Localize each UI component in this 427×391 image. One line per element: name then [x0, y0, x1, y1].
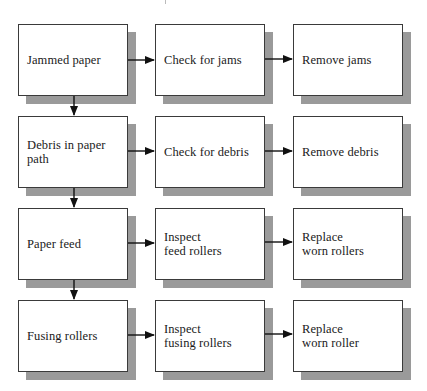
node-label: Check for debris [164, 145, 249, 159]
node-replace-worn-rollers: Replace worn rollers [293, 208, 403, 280]
node-box: Paper feed [18, 208, 128, 280]
node-inspect-fusing-rollers: Inspect fusing rollers [155, 300, 265, 372]
node-box: Inspect fusing rollers [155, 300, 265, 372]
node-debris-in-paper-path: Debris in paper path [18, 116, 128, 188]
node-jammed-paper: Jammed paper [18, 24, 128, 96]
node-box: Fusing rollers [18, 300, 128, 372]
node-check-for-debris: Check for debris [155, 116, 265, 188]
stray-mark [165, 0, 166, 4]
node-label: Paper feed [27, 237, 81, 251]
node-label: Jammed paper [27, 53, 101, 67]
node-label: Inspect feed rollers [164, 230, 222, 258]
node-label: Fusing rollers [27, 329, 98, 343]
node-label: Debris in paper path [27, 138, 106, 166]
node-box: Debris in paper path [18, 116, 128, 188]
node-box: Remove debris [293, 116, 403, 188]
node-box: Replace worn rollers [293, 208, 403, 280]
troubleshooting-flowchart: Jammed paper Check for jams Remove jams … [0, 0, 427, 391]
node-label: Replace worn roller [302, 322, 359, 350]
node-box: Jammed paper [18, 24, 128, 96]
node-check-for-jams: Check for jams [155, 24, 265, 96]
node-label: Inspect fusing rollers [164, 322, 232, 350]
node-remove-debris: Remove debris [293, 116, 403, 188]
node-label: Remove jams [302, 53, 372, 67]
node-label: Replace worn rollers [302, 230, 364, 258]
node-inspect-feed-rollers: Inspect feed rollers [155, 208, 265, 280]
node-box: Inspect feed rollers [155, 208, 265, 280]
node-box: Replace worn roller [293, 300, 403, 372]
node-label: Check for jams [164, 53, 242, 67]
node-remove-jams: Remove jams [293, 24, 403, 96]
node-box: Remove jams [293, 24, 403, 96]
node-fusing-rollers: Fusing rollers [18, 300, 128, 372]
node-paper-feed: Paper feed [18, 208, 128, 280]
node-box: Check for debris [155, 116, 265, 188]
node-label: Remove debris [302, 145, 379, 159]
node-replace-worn-roller: Replace worn roller [293, 300, 403, 372]
node-box: Check for jams [155, 24, 265, 96]
